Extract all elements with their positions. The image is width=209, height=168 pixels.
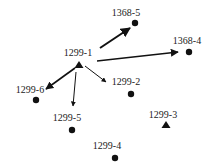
circle-node-icon [112,155,118,161]
circle-node-icon [69,127,75,133]
diagram-svg: 1368-51368-41299-11299-21299-61299-51299… [0,0,209,168]
flow-diagram: 1368-51368-41299-11299-21299-61299-51299… [0,0,209,168]
node-label: 1299-3 [149,109,177,120]
node-label: 1368-5 [112,7,140,18]
circle-node-icon [128,91,134,97]
triangle-node-icon [162,121,171,128]
arrow-1299-1-to-1368-5 [100,28,130,48]
circle-node-icon [132,20,138,26]
circle-node-icon [186,49,192,55]
node-label: 1299-2 [112,76,140,87]
node-label: 1299-6 [16,84,44,95]
circle-node-icon [33,97,39,103]
triangle-node-icon [75,61,84,68]
node-label: 1368-4 [173,35,201,46]
arrow-1299-1-to-1299-5 [73,72,76,106]
node-label: 1299-1 [64,47,92,58]
arrow-1299-1-to-1368-4 [97,52,178,61]
node-label: 1299-5 [53,112,81,123]
arrow-1299-1-to-1299-2 [85,66,106,82]
arrow-1299-1-to-1299-6 [46,68,75,89]
node-label: 1299-4 [93,140,121,151]
